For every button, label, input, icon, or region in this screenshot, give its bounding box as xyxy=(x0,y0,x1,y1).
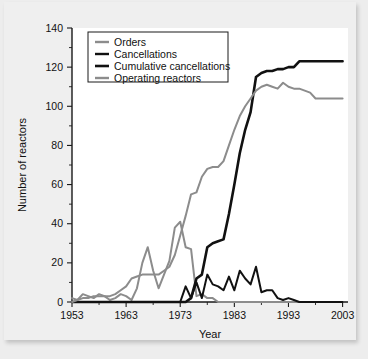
y-axis-title: Number of reactors xyxy=(16,117,28,212)
x-tick-label: 1983 xyxy=(223,309,247,321)
y-tick-label: 140 xyxy=(45,22,63,34)
y-tick-label: 80 xyxy=(51,139,63,151)
legend-label-1: Cancellations xyxy=(114,48,177,60)
y-tick-label: 0 xyxy=(57,296,63,308)
legend-label-0: Orders xyxy=(114,36,146,48)
reactor-line-chart: 0204060801001201401953196319731983199320… xyxy=(0,0,368,359)
legend-label-3: Operating reactors xyxy=(114,72,201,84)
legend-label-2: Cumulative cancellations xyxy=(114,60,230,72)
x-tick-label: 1993 xyxy=(277,309,301,321)
figure-card: 0204060801001201401953196319731983199320… xyxy=(0,0,368,359)
x-tick-label: 1963 xyxy=(114,309,138,321)
x-tick-label: 1973 xyxy=(169,309,193,321)
x-tick-label: 2003 xyxy=(331,309,355,321)
y-tick-label: 60 xyxy=(51,178,63,190)
y-tick-label: 100 xyxy=(45,100,63,112)
y-tick-label: 120 xyxy=(45,61,63,73)
x-tick-label: 1953 xyxy=(60,309,84,321)
x-axis-title: Year xyxy=(199,328,222,340)
y-tick-label: 20 xyxy=(51,256,63,268)
y-tick-label: 40 xyxy=(51,217,63,229)
